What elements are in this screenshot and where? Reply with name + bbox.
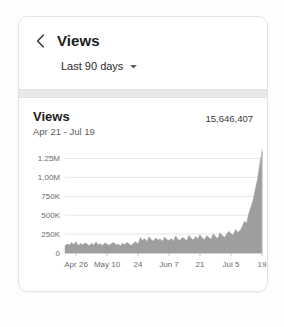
y-axis-tick-label: 250K (41, 230, 60, 239)
date-range-selector[interactable]: Last 90 days (61, 59, 138, 73)
chart-card: Views Apr 21 - Jul 19 15,646,407 1.25M1,… (19, 98, 267, 291)
x-axis-tick-label: Jun 7 (159, 260, 179, 269)
chart-date-range: Apr 21 - Jul 19 (33, 126, 95, 138)
x-axis-tick-label: 21 (196, 260, 205, 269)
chart-header: Views Apr 21 - Jul 19 15,646,407 (19, 109, 267, 141)
page-title: Views (57, 32, 100, 50)
x-axis-tick-label: Apr 26 (64, 260, 88, 269)
chart-title: Views (33, 109, 70, 125)
chart-plot[interactable]: 1.25M1,00M750K500K250K0Apr 26May 1024Jun… (19, 141, 267, 281)
chart-total-value: 15,646,407 (205, 113, 253, 125)
chevron-down-icon[interactable] (129, 62, 138, 71)
x-axis-tick-label: Jul 5 (223, 260, 240, 269)
title-row: Views (33, 32, 100, 50)
section-divider (19, 89, 267, 98)
y-axis-tick-label: 500K (41, 211, 60, 220)
views-card: Views Last 90 days Views Apr 21 - Jul 19… (18, 16, 268, 292)
area-series (65, 152, 262, 253)
app-screen: Views Last 90 days Views Apr 21 - Jul 19… (0, 0, 284, 327)
x-axis-tick-label: 24 (134, 260, 143, 269)
card-header: Views Last 90 days (19, 17, 267, 89)
area-chart-svg: 1.25M1,00M750K500K250K0Apr 26May 1024Jun… (19, 141, 267, 281)
y-axis-tick-label: 750K (41, 192, 60, 201)
y-axis-tick-label: 1.25M (38, 154, 61, 163)
y-axis-tick-label: 0 (56, 249, 61, 258)
x-axis-tick-label: May 10 (94, 260, 121, 269)
chevron-left-icon[interactable] (33, 32, 47, 50)
x-axis-tick-label: 19 (258, 260, 267, 269)
date-range-label: Last 90 days (61, 59, 123, 73)
y-axis-tick-label: 1,00M (38, 173, 61, 182)
